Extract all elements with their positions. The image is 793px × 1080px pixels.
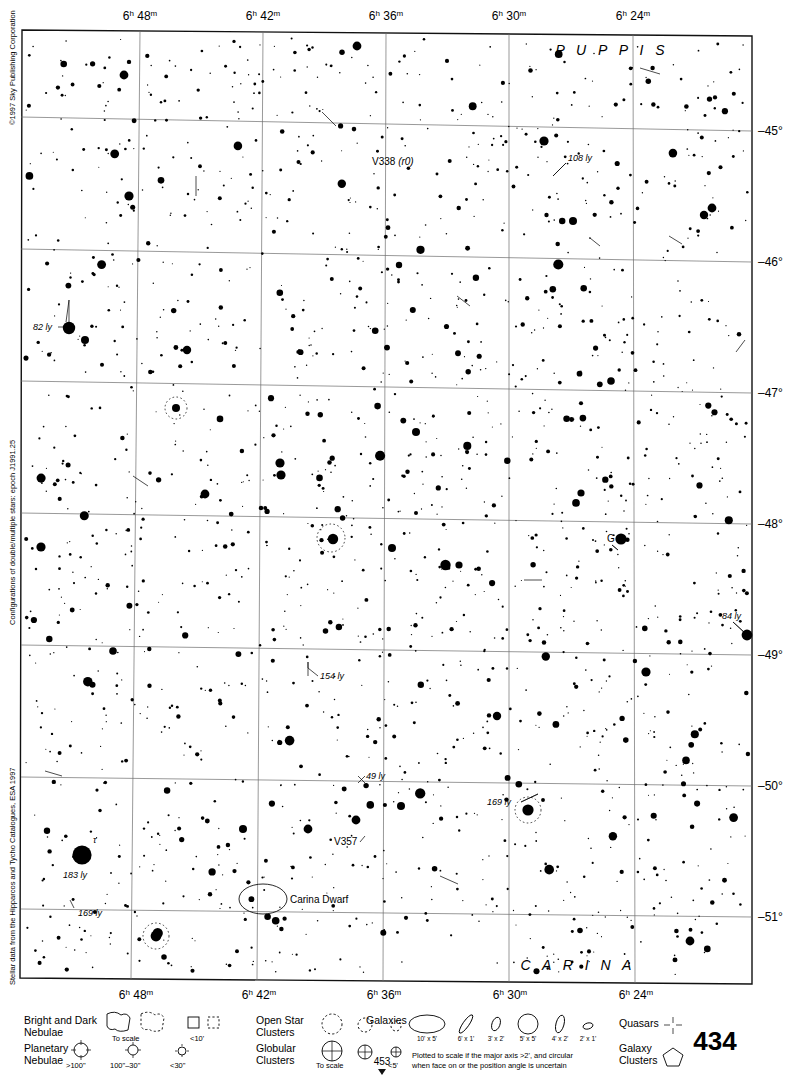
star [240,449,245,454]
star [718,789,720,791]
star [633,221,636,224]
annotation-49ly: 49 ly [366,771,386,781]
star [191,966,192,967]
star [421,471,423,473]
star [305,411,309,415]
star [148,92,149,93]
star [353,518,355,520]
star [72,845,91,864]
star [50,352,52,354]
star [330,456,335,461]
star [505,300,507,302]
star [195,504,196,505]
star [97,260,106,269]
star [525,296,529,300]
star [363,971,364,972]
star [691,725,692,726]
star [373,173,374,174]
star [739,903,742,906]
star [341,150,342,151]
star [592,539,594,541]
star [648,795,649,796]
star [688,331,691,334]
star [373,388,376,391]
star [258,92,261,95]
star [462,900,463,901]
star [223,341,227,345]
star [704,648,706,650]
star [233,72,235,74]
star [702,156,703,157]
star [380,381,382,383]
star [615,161,620,166]
star [746,191,749,194]
star [732,893,735,896]
star [494,637,496,639]
star [295,954,297,956]
star [372,478,374,480]
star [249,896,255,902]
star [700,299,703,302]
star [742,44,743,45]
star [461,478,463,480]
dec-axis: –45° –46° –47° –48° –49° –50° –51° [758,124,783,924]
star [605,513,607,515]
star [602,116,603,117]
star [745,422,748,425]
star [124,191,133,200]
star [580,426,581,427]
star [243,481,244,482]
star [134,704,136,706]
star [613,723,616,726]
star [242,506,243,507]
star [578,561,579,562]
star [728,335,729,336]
star [263,437,264,438]
star [325,864,326,865]
star [95,789,98,792]
star [629,174,632,177]
star [465,813,467,815]
star [560,595,561,596]
star [463,614,465,616]
star [370,328,371,329]
star [232,869,236,873]
star [64,835,68,839]
star [486,516,487,517]
star [687,664,688,665]
star [72,481,75,484]
star [462,522,465,525]
star [110,943,111,944]
star [91,534,93,536]
star [706,434,707,435]
star [90,407,92,409]
star [184,519,186,521]
star [480,341,482,343]
star [565,537,568,540]
star [332,853,333,854]
star [639,858,641,860]
star [534,329,535,330]
star [742,589,746,593]
star [682,757,690,765]
star [573,91,576,94]
star [713,95,717,99]
star [379,655,382,658]
legend-label-globular-line2: Clusters [256,1054,295,1066]
star [679,615,682,618]
star [203,170,204,171]
star [487,114,488,115]
star [604,544,605,545]
star [593,346,598,351]
star [534,781,536,783]
star [519,720,522,723]
ra-tick-label-top-4: 6h 24m [616,9,651,24]
star [202,581,203,582]
star [171,308,176,313]
star [657,521,659,523]
star [95,592,97,594]
star [609,810,610,811]
star [293,833,295,835]
star [680,653,682,655]
star [567,252,569,254]
